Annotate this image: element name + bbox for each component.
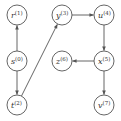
node-t: t(2) [7, 95, 27, 115]
nodes-layer: s(0)r(1)t(2)y(3)u(4)x(5)z(6)v(7) [7, 5, 114, 115]
node-s: s(0) [7, 51, 27, 71]
node-x: x(5) [94, 51, 114, 71]
directed-graph: s(0)r(1)t(2)y(3)u(4)x(5)z(6)v(7) [0, 0, 121, 121]
node-y: y(3) [52, 5, 72, 25]
node-r: r(1) [7, 5, 27, 25]
node-v: v(7) [94, 95, 114, 115]
node-z: z(6) [52, 51, 72, 71]
node-u: u(4) [94, 5, 114, 25]
